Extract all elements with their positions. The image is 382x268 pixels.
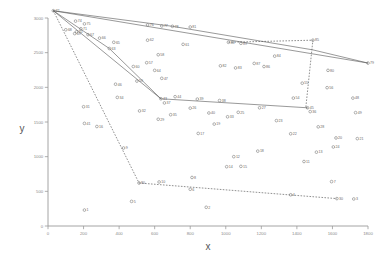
scatter-plot-figure: 0200400600800100012001400160018000500100… xyxy=(0,0,382,268)
data-point-marker[interactable] xyxy=(309,110,312,113)
data-point-marker[interactable] xyxy=(182,43,185,46)
data-point-marker[interactable] xyxy=(73,32,76,35)
x-tick-label-200: 200 xyxy=(80,231,88,236)
data-point-marker[interactable] xyxy=(191,176,194,179)
data-point-marker[interactable] xyxy=(263,65,266,68)
data-point-marker[interactable] xyxy=(335,137,338,140)
data-point-label: 13 xyxy=(319,150,323,154)
data-point-marker[interactable] xyxy=(303,160,306,163)
data-point-label: 82 xyxy=(223,64,227,68)
data-point-marker[interactable] xyxy=(292,97,295,100)
data-point-marker[interactable] xyxy=(317,126,320,129)
data-point-marker[interactable] xyxy=(157,118,160,121)
data-point-label: 55 xyxy=(304,81,308,85)
data-point-marker[interactable] xyxy=(146,24,149,27)
data-point-marker[interactable] xyxy=(138,110,141,113)
data-point-label: 72 xyxy=(55,9,59,13)
data-point-marker[interactable] xyxy=(240,42,243,45)
data-point-marker[interactable] xyxy=(354,111,357,114)
data-point-marker[interactable] xyxy=(74,20,77,23)
data-point-label: 76 xyxy=(150,23,154,27)
data-point-label: 78 xyxy=(175,25,179,29)
data-point-marker[interactable] xyxy=(275,119,278,122)
data-point-marker[interactable] xyxy=(146,39,149,42)
data-point-marker[interactable] xyxy=(98,37,101,40)
x-axis-title: x xyxy=(206,241,211,252)
data-point-label: 62 xyxy=(150,38,154,42)
data-point-marker[interactable] xyxy=(83,209,86,212)
data-point-marker[interactable] xyxy=(205,206,208,209)
data-point-marker[interactable] xyxy=(256,150,259,153)
data-point-marker[interactable] xyxy=(83,23,86,26)
data-point-marker[interactable] xyxy=(169,113,172,116)
data-point-marker[interactable] xyxy=(253,62,256,65)
data-point-label: 84 xyxy=(277,54,281,58)
data-point-marker[interactable] xyxy=(145,61,148,64)
data-point-marker[interactable] xyxy=(197,132,200,135)
data-point-marker[interactable] xyxy=(64,28,67,31)
data-point-marker[interactable] xyxy=(163,102,166,105)
data-point-marker[interactable] xyxy=(226,115,229,118)
data-point-marker[interactable] xyxy=(96,125,99,128)
data-point-marker[interactable] xyxy=(352,97,355,100)
data-point-marker[interactable] xyxy=(112,41,115,44)
data-point-label: 27 xyxy=(262,106,266,110)
data-point-label: 30 xyxy=(339,197,343,201)
y-tick-label-1500: 1500 xyxy=(34,120,44,125)
data-point-marker[interactable] xyxy=(208,112,211,115)
data-point-label: 86 xyxy=(266,65,270,69)
data-point-label: 59 xyxy=(139,79,143,83)
data-point-label: 21 xyxy=(359,137,363,141)
data-point-marker[interactable] xyxy=(240,165,243,168)
data-point-marker[interactable] xyxy=(83,122,86,125)
data-point-marker[interactable] xyxy=(332,146,335,149)
y-axis-title: y xyxy=(20,123,25,134)
data-point-label: 64 xyxy=(157,69,161,73)
data-point-label: 81 xyxy=(192,25,196,29)
data-point-marker[interactable] xyxy=(174,95,177,98)
data-point-marker[interactable] xyxy=(189,26,192,29)
data-point-marker[interactable] xyxy=(273,55,276,58)
data-point-marker[interactable] xyxy=(189,188,192,191)
data-point-marker[interactable] xyxy=(189,107,192,110)
data-point-marker[interactable] xyxy=(153,69,156,72)
data-point-marker[interactable] xyxy=(301,82,304,85)
data-point-marker[interactable] xyxy=(82,105,85,108)
data-point-marker[interactable] xyxy=(315,151,318,154)
data-point-marker[interactable] xyxy=(218,99,221,102)
data-point-label: 25 xyxy=(240,111,244,115)
data-point-marker[interactable] xyxy=(237,111,240,114)
data-point-marker[interactable] xyxy=(356,137,359,140)
data-point-marker[interactable] xyxy=(289,132,292,135)
data-point-marker[interactable] xyxy=(213,123,216,126)
data-point-label: 14 xyxy=(229,165,233,169)
data-point-label: 22 xyxy=(293,132,297,136)
data-point-marker[interactable] xyxy=(352,198,355,201)
data-point-label: 15 xyxy=(243,165,247,169)
data-point-marker[interactable] xyxy=(232,155,235,158)
data-point-label: 47 xyxy=(164,77,168,81)
data-point-marker[interactable] xyxy=(114,83,117,86)
data-point-marker[interactable] xyxy=(330,180,333,183)
data-point-label: 44 xyxy=(177,95,181,99)
data-point-marker[interactable] xyxy=(219,64,222,67)
data-point-label: 20 xyxy=(338,136,342,140)
x-tick-label-1200: 1200 xyxy=(257,231,267,236)
data-point-marker[interactable] xyxy=(326,86,329,89)
data-point-marker[interactable] xyxy=(196,98,199,101)
data-point-marker[interactable] xyxy=(122,147,125,150)
data-point-label: 49 xyxy=(358,111,362,115)
data-point-marker[interactable] xyxy=(327,69,330,72)
x-tick-label-1600: 1600 xyxy=(328,231,338,236)
data-point-marker[interactable] xyxy=(132,65,135,68)
data-point-marker[interactable] xyxy=(130,200,133,203)
data-point-marker[interactable] xyxy=(157,53,160,56)
data-point-marker[interactable] xyxy=(136,80,139,83)
data-point-marker[interactable] xyxy=(160,77,163,80)
data-point-marker[interactable] xyxy=(234,67,237,70)
data-point-marker[interactable] xyxy=(158,181,161,184)
data-point-marker[interactable] xyxy=(258,106,261,109)
data-point-marker[interactable] xyxy=(116,96,119,99)
data-point-marker[interactable] xyxy=(225,165,228,168)
tour-dashed-left xyxy=(53,11,139,183)
